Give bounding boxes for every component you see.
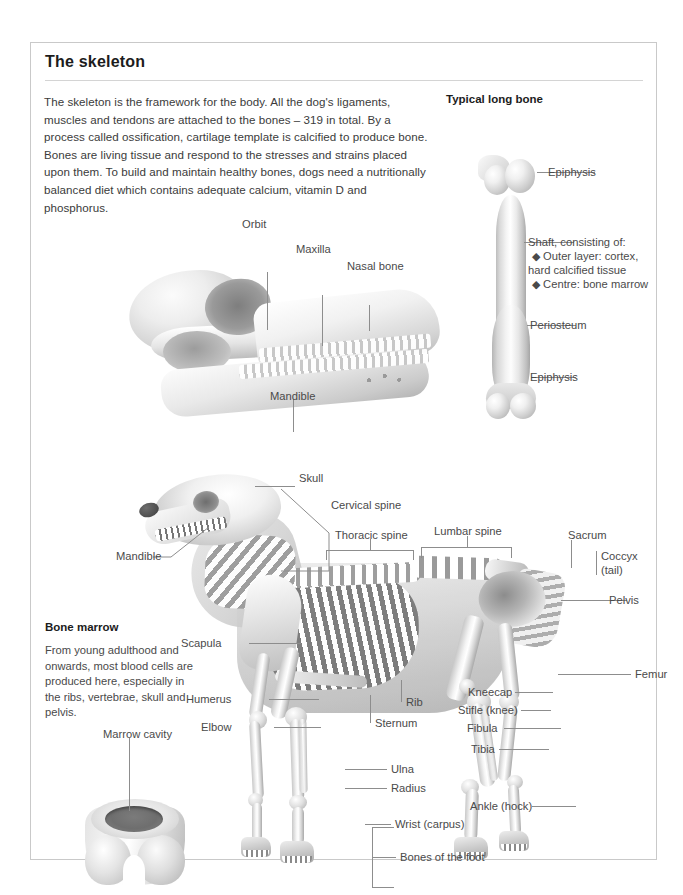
bracket-lumbar-spine: [421, 547, 512, 558]
label-fibula: Fibula: [467, 721, 497, 736]
intro-paragraph: The skeleton is the framework for the bo…: [44, 93, 431, 216]
dog-metatarsus-near: [464, 789, 479, 841]
label-coccyx-tail: (tail): [601, 563, 623, 578]
leader-nasal-bone: [369, 305, 370, 331]
leader-kneecap: [515, 692, 553, 693]
label-ulna: Ulna: [391, 762, 414, 777]
dog-hindfoot-far: [499, 831, 529, 851]
leader-ulna: [345, 769, 387, 770]
label-stifle-knee: Stifle (knee): [458, 703, 518, 718]
label-epiphysis-bottom: Epiphysis: [530, 370, 578, 385]
dog-metacarpus-far: [252, 803, 262, 841]
leader-elbow: [274, 727, 321, 728]
leader-humerus: [269, 699, 319, 700]
long-bone-condyle-right: [510, 393, 536, 419]
marrow-bone-notch: [123, 855, 145, 887]
long-bone-trochanter-knob: [505, 159, 535, 193]
leader-fibula: [504, 728, 561, 729]
leader-sacrum: [571, 540, 572, 568]
label-nasal-bone: Nasal bone: [347, 259, 404, 274]
label-shaft-bullet-1: ◆ Outer layer: cortex,: [532, 249, 638, 264]
label-lumbar-spine: Lumbar spine: [434, 524, 502, 539]
leader-mandible-dog: [151, 523, 221, 573]
leader-bones-of-foot: [372, 857, 396, 858]
leader-femur: [558, 674, 631, 675]
label-shaft-bullet-2: ◆ Centre: bone marrow: [532, 277, 648, 292]
leader-mandible-skull: [293, 399, 294, 432]
label-humerus: Humerus: [186, 692, 231, 707]
dog-forefoot-near: [280, 841, 314, 863]
dog-ulna-near: [298, 719, 307, 793]
leader-ankle: [532, 806, 576, 807]
page-frame: The skeleton The skeleton is the framewo…: [30, 42, 657, 860]
leader-wrist: [365, 824, 391, 825]
leader-radius: [345, 788, 387, 789]
label-shaft-intro: Shaft, consisting of:: [528, 235, 626, 250]
long-bone-condyle-left: [486, 393, 510, 419]
label-bones-of-foot: Bones of the foot: [400, 850, 485, 865]
label-orbit: Orbit: [242, 217, 266, 232]
bracket-thoracic-spine: [326, 550, 414, 560]
label-rib: Rib: [406, 695, 423, 710]
label-periosteum: Periosteum: [530, 318, 587, 333]
label-sternum: Sternum: [375, 716, 417, 731]
label-ankle-hock: Ankle (hock): [470, 799, 532, 814]
label-sacrum: Sacrum: [568, 528, 607, 543]
dog-radius-far: [249, 721, 264, 799]
leader-marrow-cavity: [129, 738, 130, 811]
long-bone-heading: Typical long bone: [446, 93, 543, 105]
label-tibia: Tibia: [471, 742, 495, 757]
leader-rib: [401, 680, 402, 702]
label-mandible-skull: Mandible: [270, 389, 315, 404]
label-maxilla: Maxilla: [296, 242, 331, 257]
dog-metacarpus-near: [292, 807, 304, 845]
label-skull: Skull: [299, 471, 323, 486]
leader-scapula: [249, 643, 301, 644]
bone-marrow-heading: Bone marrow: [45, 621, 119, 633]
label-epiphysis-top: Epiphysis: [548, 165, 596, 180]
label-shaft-bullet-1b: hard calcified tissue: [528, 263, 626, 278]
leader-tibia: [499, 749, 549, 750]
leader-coccyx: [596, 551, 597, 575]
label-mandible-dog: Mandible: [116, 549, 161, 564]
label-kneecap: Kneecap: [468, 685, 512, 700]
leader-sternum: [370, 695, 371, 723]
label-elbow: Elbow: [201, 720, 231, 735]
label-wrist-carpus: Wrist (carpus): [395, 817, 464, 832]
leader-stifle: [521, 710, 551, 711]
label-cervical-spine: Cervical spine: [331, 498, 401, 513]
label-coccyx: Coccyx: [601, 549, 638, 564]
label-femur: Femur: [635, 667, 667, 682]
label-scapula: Scapula: [181, 636, 221, 651]
page-title: The skeleton: [45, 53, 145, 71]
title-divider: [45, 80, 643, 81]
label-pelvis: Pelvis: [609, 593, 639, 608]
label-thoracic-spine: Thoracic spine: [335, 528, 408, 543]
label-radius: Radius: [391, 781, 426, 796]
leader-maxilla: [322, 295, 323, 346]
dog-forefoot-far: [241, 837, 271, 857]
leader-orbit: [267, 272, 268, 330]
